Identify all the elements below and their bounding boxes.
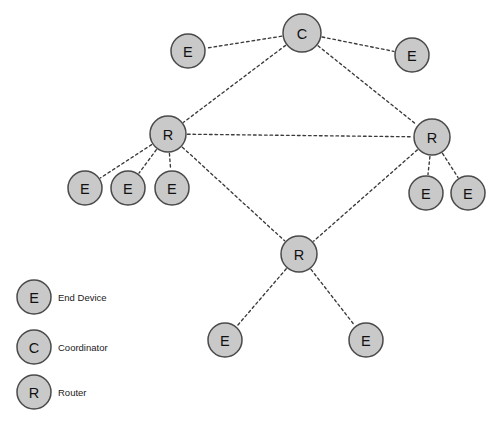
node-label: E [421,186,431,202]
edges-layer [101,36,458,326]
legend-layer: EEnd DeviceCCoordinatorRRouter [17,280,108,409]
node-r2-router[interactable]: R [414,119,450,155]
legend-symbol-label: E [29,290,39,306]
node-label: R [294,247,305,263]
node-e3-end-device[interactable]: E [68,171,102,205]
edge-r2-r3 [314,150,418,241]
node-e2-end-device[interactable]: E [395,38,429,72]
node-label: E [183,44,193,60]
edge-c1-e1 [206,36,281,48]
edge-r2-e7 [443,153,458,177]
edge-r1-e5 [169,153,170,169]
edge-r3-e9 [311,269,355,325]
node-e9-end-device[interactable]: E [349,323,383,357]
node-label: E [361,333,371,349]
legend-item-text: Router [58,387,87,398]
node-c1-coordinator[interactable]: C [283,14,321,52]
legend-symbol-label: C [29,340,39,356]
legend-item-text: Coordinator [58,342,108,353]
legend-symbol-label: R [29,385,39,401]
node-label: E [80,181,90,197]
node-e1-end-device[interactable]: E [171,34,205,68]
node-e5-end-device[interactable]: E [155,171,189,205]
node-e8-end-device[interactable]: E [208,323,242,357]
legend-item-end-device: EEnd Device [17,280,107,314]
node-label: C [297,26,308,42]
node-label: E [167,181,177,197]
node-e6-end-device[interactable]: E [409,176,443,210]
edge-r2-e6 [428,156,430,174]
legend-item-coordinator: CCoordinator [17,330,108,364]
topology-canvas: CEERREEEEEREE EEnd DeviceCCoordinatorRRo… [0,0,496,427]
nodes-layer: CEERREEEEEREE [68,14,485,357]
node-label: E [123,181,133,197]
node-e4-end-device[interactable]: E [111,171,145,205]
edge-r1-r2 [188,134,413,137]
network-topology-diagram: CEERREEEEEREE EEnd DeviceCCoordinatorRRo… [0,0,496,427]
node-label: E [407,48,417,64]
legend-item-text: End Device [58,292,107,303]
node-r1-router[interactable]: R [150,116,186,152]
node-e7-end-device[interactable]: E [451,176,485,210]
node-r3-router[interactable]: R [281,236,317,272]
edge-r1-e4 [139,150,156,173]
node-label: E [220,333,230,349]
node-label: R [427,130,438,146]
node-label: R [163,127,174,143]
legend-item-router: RRouter [17,375,87,409]
edge-r1-r3 [182,147,284,241]
edge-r3-e8 [237,269,286,326]
edge-c1-e2 [322,37,394,51]
node-label: E [463,186,473,202]
